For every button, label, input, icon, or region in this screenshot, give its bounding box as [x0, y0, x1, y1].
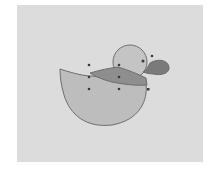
anchor-handle[interactable] — [118, 64, 121, 67]
anchor-handle[interactable] — [88, 76, 91, 79]
duck-eye — [142, 60, 145, 63]
anchor-handle[interactable] — [88, 64, 91, 67]
anchor-handle[interactable] — [147, 88, 150, 91]
anchor-handle[interactable] — [118, 76, 121, 79]
anchor-handle[interactable] — [151, 55, 154, 58]
anchor-handle[interactable] — [88, 88, 91, 91]
anchor-handle[interactable] — [118, 88, 121, 91]
duck-illustration[interactable] — [0, 0, 215, 176]
